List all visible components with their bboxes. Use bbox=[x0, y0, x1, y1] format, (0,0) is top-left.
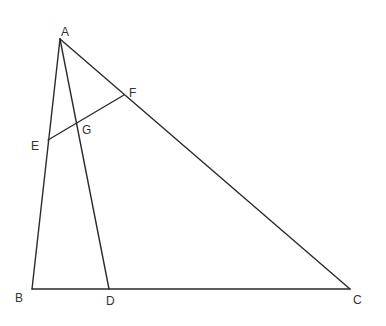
segment-ab bbox=[32, 39, 60, 289]
label-b: B bbox=[15, 291, 23, 305]
triangle-diagram: A B C D E F G bbox=[0, 0, 386, 326]
segment-ac bbox=[60, 39, 350, 289]
label-f: F bbox=[129, 86, 136, 100]
segments bbox=[32, 39, 350, 289]
segment-ad bbox=[60, 39, 109, 289]
label-d: D bbox=[106, 294, 115, 308]
point-labels: A B C D E F G bbox=[15, 25, 362, 308]
label-g: G bbox=[82, 123, 91, 137]
label-a: A bbox=[61, 25, 69, 39]
label-c: C bbox=[353, 293, 362, 307]
label-e: E bbox=[31, 139, 39, 153]
